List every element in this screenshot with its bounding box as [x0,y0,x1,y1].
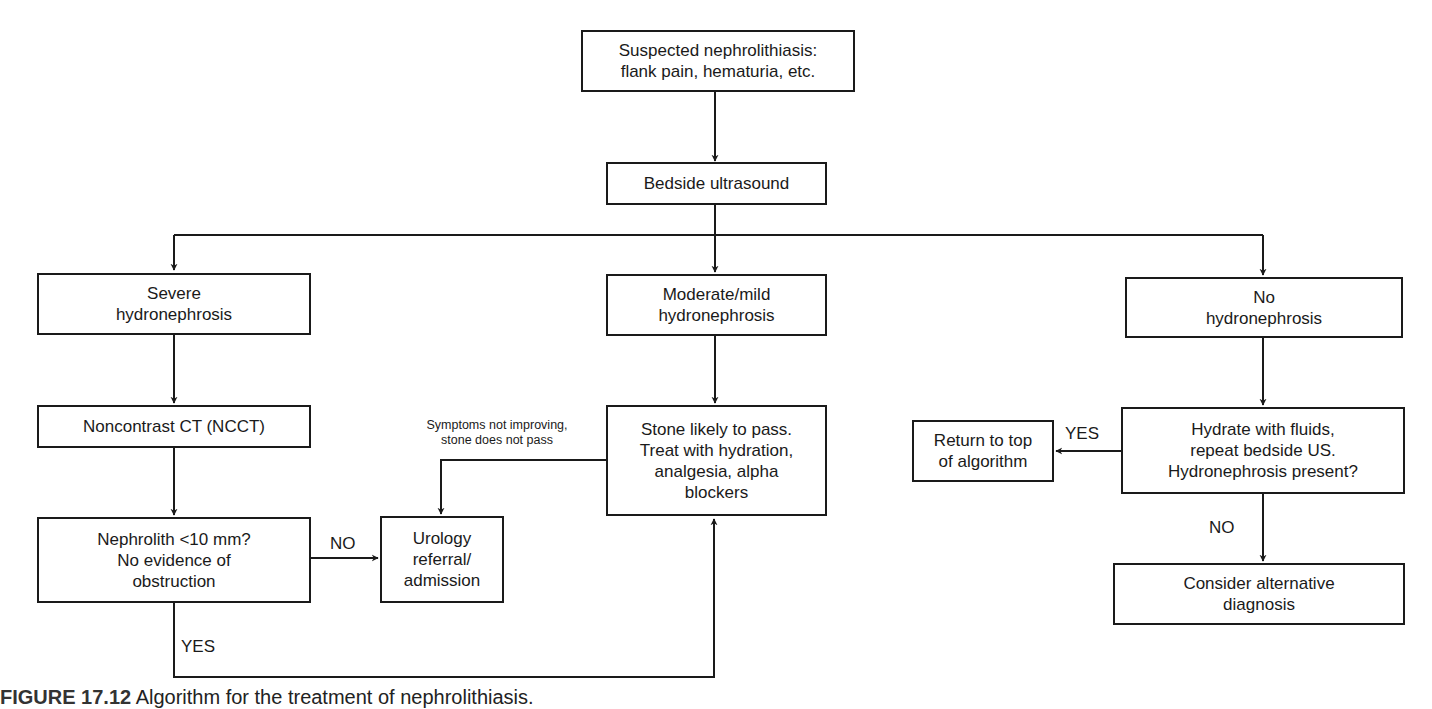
node-suspected-nephrolithiasis: Suspected nephrolithiasis: flank pain, h… [581,30,855,92]
node-severe-hydronephrosis: Severe hydronephrosis [37,273,311,335]
node-moderate-hydronephrosis: Moderate/mild hydronephrosis [606,274,827,336]
node-noncontrast-ct: Noncontrast CT (NCCT) [37,405,311,448]
edge-label-hydrate-no: NO [1209,518,1235,538]
edge-label-symptoms-not-improving: Symptoms not improving, stone does not p… [402,418,592,448]
edge-label-nephrolith-yes: YES [181,637,215,657]
figure-caption-text: Algorithm for the treatment of nephrolit… [136,686,534,708]
figure-caption: FIGURE 17.12 Algorithm for the treatment… [0,686,534,709]
node-nephrolith-question: Nephrolith <10 mm? No evidence of obstru… [37,517,311,603]
arrow-stone-to-urology [441,460,606,514]
edge-label-hydrate-yes: YES [1065,424,1099,444]
node-stone-likely-to-pass: Stone likely to pass. Treat with hydrati… [606,405,827,516]
node-no-hydronephrosis: No hydronephrosis [1125,277,1403,338]
figure-number: FIGURE 17.12 [0,686,131,708]
node-consider-alternative: Consider alternative diagnosis [1113,563,1405,625]
edge-label-nephrolith-no: NO [330,534,356,554]
node-bedside-ultrasound: Bedside ultrasound [606,162,827,205]
node-return-to-top: Return to top of algorithm [912,420,1054,482]
node-hydrate-with-fluids: Hydrate with fluids, repeat bedside US. … [1121,407,1405,494]
node-urology-referral: Urology referral/ admission [380,516,504,603]
